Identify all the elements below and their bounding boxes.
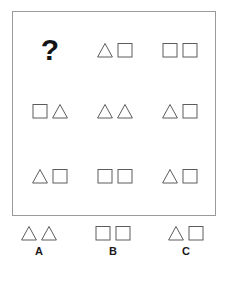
matrix-cell-r2c2 [148,156,212,196]
square-icon [31,102,49,120]
triangle-icon [51,102,69,120]
matrix-cell-r1c1 [83,91,147,131]
triangle-icon [40,224,58,242]
matrix-cell-r1c0 [18,91,82,131]
matrix-panel: ? [12,11,216,216]
square-icon [187,224,205,242]
triangle-icon [161,167,179,185]
answer-option-a[interactable]: A [8,222,70,268]
matrix-row [13,156,215,196]
square-icon [94,224,112,242]
answer-option-c-shapes [155,222,217,244]
triangle-icon [161,102,179,120]
answer-option-a-shapes [8,222,70,244]
square-icon [51,167,69,185]
answer-option-b-label: B [82,245,144,258]
square-icon [96,167,114,185]
answer-option-c[interactable]: C [155,222,217,268]
square-icon [181,102,199,120]
triangle-icon [20,224,38,242]
matrix-cell-r2c1 [83,156,147,196]
square-icon [181,167,199,185]
triangle-icon [167,224,185,242]
matrix-cell-r0c0: ? [18,30,82,70]
matrix-cell-r1c2 [148,91,212,131]
matrix-cell-r0c1 [83,30,147,70]
square-icon [116,41,134,59]
square-icon [181,41,199,59]
matrix-row: ? [13,30,215,70]
question-mark: ? [41,35,59,65]
square-icon [116,167,134,185]
triangle-icon [116,102,134,120]
answer-option-c-label: C [155,245,217,258]
matrix-cell-r0c2 [148,30,212,70]
square-icon [161,41,179,59]
answer-options: A B C [12,222,216,268]
puzzle-root: ? A B C [0,0,239,294]
matrix-row [13,91,215,131]
answer-option-a-label: A [8,245,70,258]
triangle-icon [31,167,49,185]
answer-option-b[interactable]: B [82,222,144,268]
matrix-cell-r2c0 [18,156,82,196]
triangle-icon [96,102,114,120]
square-icon [114,224,132,242]
answer-option-b-shapes [82,222,144,244]
triangle-icon [96,41,114,59]
